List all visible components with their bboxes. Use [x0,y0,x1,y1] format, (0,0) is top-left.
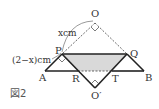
geometry-figure: O P Q A B R T O′ xcm (2−x)cm 図2 [0,0,159,109]
right-angle-p [58,58,66,62]
label-o: O [91,8,99,19]
shaded-region [62,54,127,71]
label-r: R [72,73,80,84]
label-t: T [112,73,119,84]
right-angle-o-prime [91,80,99,84]
label-q: Q [130,48,138,59]
label-2-minus-x-cm: (2−x)cm [12,55,51,65]
dashed-oq [95,23,127,54]
label-a: A [38,72,47,83]
label-o-prime: O′ [91,90,102,101]
label-b: B [145,72,152,83]
label-x-cm: xcm [58,28,77,38]
right-angle-o [91,27,99,31]
label-p: P [55,45,62,56]
figure-caption: 図2 [10,88,26,99]
